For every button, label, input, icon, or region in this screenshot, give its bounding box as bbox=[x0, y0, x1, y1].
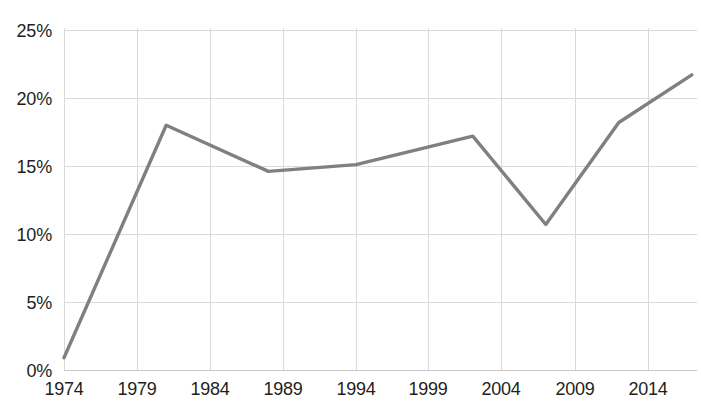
x-tick-label-1994: 1994 bbox=[336, 380, 375, 398]
x-tick-label-1974: 1974 bbox=[44, 380, 83, 398]
x-tick-label-1984: 1984 bbox=[190, 380, 229, 398]
x-tick-label-2009: 2009 bbox=[555, 380, 594, 398]
series-layer bbox=[0, 0, 701, 415]
line-chart: 25% 20% 15% 10% 5% 0% 1974 1979 1984 198… bbox=[0, 0, 701, 415]
x-tick-label-1999: 1999 bbox=[408, 380, 447, 398]
x-tick-label-1979: 1979 bbox=[117, 380, 156, 398]
x-tick-label-1989: 1989 bbox=[263, 380, 302, 398]
data-line-series-1 bbox=[64, 75, 692, 358]
x-tick-label-2014: 2014 bbox=[628, 380, 667, 398]
x-tick-label-2004: 2004 bbox=[481, 380, 520, 398]
